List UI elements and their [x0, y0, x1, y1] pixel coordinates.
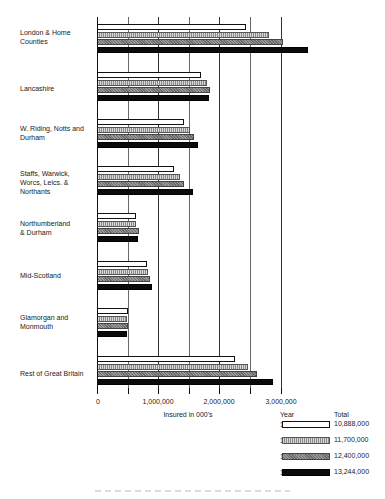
legend-swatch-1937 — [282, 469, 330, 476]
label-line: Counties — [20, 37, 71, 46]
legend-total-header: Total — [334, 411, 349, 418]
x-axis-title: Insured in 000's — [163, 411, 212, 418]
x-tick-label: 2,000,000 — [203, 398, 234, 405]
bar-1932 — [97, 87, 210, 93]
x-tick — [250, 388, 251, 394]
category-label-staffs: Staffs, Warwick, Worcs, Leics. & Northan… — [20, 169, 70, 196]
x-tick — [128, 388, 129, 394]
bar-1929 — [97, 269, 148, 275]
category-label-lancashire: Lancashire — [20, 84, 54, 93]
bar-1937 — [97, 284, 152, 290]
bar-1923 — [97, 72, 201, 78]
category-label-northumberland: Northumberland & Durham — [20, 219, 70, 237]
x-tick — [97, 388, 98, 394]
bar-1929 — [97, 32, 269, 38]
x-tick-label: 1,000,000 — [142, 398, 173, 405]
faint-caption — [95, 490, 290, 492]
bar-1929 — [97, 221, 136, 227]
label-line: Worcs, Leics. & — [20, 178, 70, 187]
bar-1923 — [97, 213, 136, 219]
bar-1937 — [97, 142, 198, 148]
legend-year-header: Year — [280, 411, 294, 418]
label-line: London & Home — [20, 28, 71, 37]
x-tick-label: 3,000,000 — [265, 398, 296, 405]
bar-1929 — [97, 174, 180, 180]
legend-total: 12,400,000 — [334, 452, 369, 459]
bar-1923 — [97, 308, 128, 314]
gridline — [281, 17, 282, 393]
bar-1923 — [97, 261, 147, 267]
x-tick — [189, 388, 190, 394]
bar-1932 — [97, 181, 184, 187]
label-line: Monmouth — [20, 322, 68, 331]
label-line: & Durham — [20, 228, 70, 237]
bar-1929 — [97, 316, 127, 322]
category-label-rest: Rest of Great Britain — [20, 369, 83, 378]
label-line: Northumberland — [20, 219, 70, 228]
bar-1932 — [97, 39, 283, 45]
bar-1932 — [97, 371, 257, 377]
gridline — [219, 17, 220, 393]
bar-1937 — [97, 189, 193, 195]
label-line: Rest of Great Britain — [20, 369, 83, 378]
bar-1923 — [97, 119, 184, 125]
bar-1937 — [97, 331, 127, 337]
category-label-wriding: W. Riding, Notts and Durham — [20, 124, 84, 142]
x-tick — [281, 388, 282, 394]
bar-1923 — [97, 24, 246, 30]
bar-1929 — [97, 80, 207, 86]
bar-1932 — [97, 228, 139, 234]
bar-1932 — [97, 323, 128, 329]
label-line: Glamorgan and — [20, 313, 68, 322]
bar-1932 — [97, 276, 150, 282]
bar-1937 — [97, 95, 209, 101]
label-line: Durham — [20, 133, 84, 142]
bar-1932 — [97, 134, 194, 140]
bar-1937 — [97, 379, 273, 385]
label-line: Mid-Scotland — [20, 271, 61, 280]
legend-total: 11,700,000 — [334, 436, 369, 443]
gridline — [250, 17, 251, 393]
category-label-glamorgan: Glamorgan and Monmouth — [20, 313, 68, 331]
legend-swatch-1923 — [282, 421, 330, 428]
bar-1923 — [97, 356, 235, 362]
legend-total: 10,888,000 — [334, 420, 369, 427]
bar-1929 — [97, 127, 190, 133]
label-line: Northants — [20, 187, 70, 196]
legend-swatch-1929 — [282, 437, 330, 444]
category-label-london: London & Home Counties — [20, 28, 71, 46]
bar-1937 — [97, 236, 138, 242]
label-line: Lancashire — [20, 84, 54, 93]
x-tick — [219, 388, 220, 394]
bar-1929 — [97, 364, 248, 370]
bar-1923 — [97, 166, 174, 172]
x-tick — [158, 388, 159, 394]
label-line: Staffs, Warwick, — [20, 169, 70, 178]
legend-swatch-1932 — [282, 453, 330, 460]
x-tick-label: 0 — [96, 398, 100, 405]
bar-1937 — [97, 47, 308, 53]
label-line: W. Riding, Notts and — [20, 124, 84, 133]
y-axis-spine — [97, 17, 98, 393]
legend-total: 13,244,000 — [334, 468, 369, 475]
category-label-midscotland: Mid-Scotland — [20, 271, 61, 280]
